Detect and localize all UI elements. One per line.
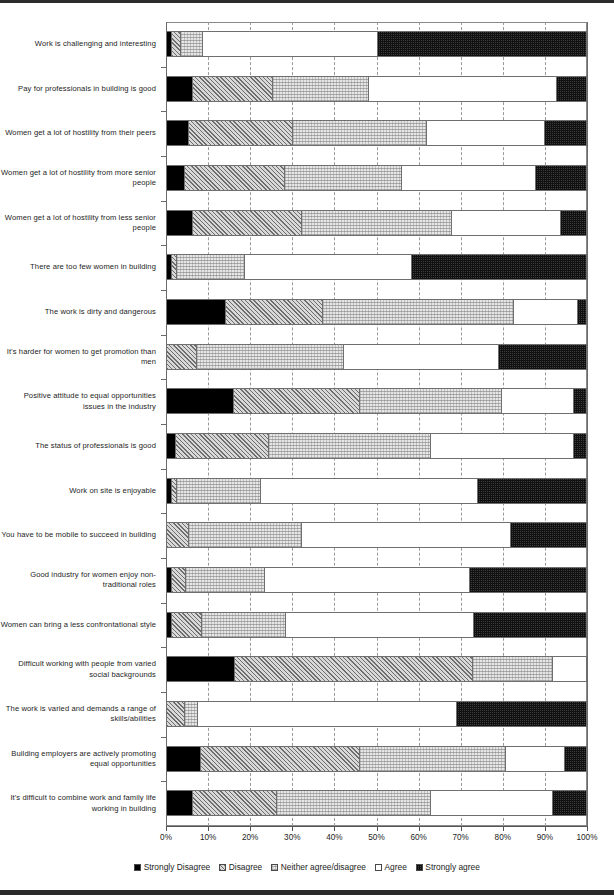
x-tick-label: 10% bbox=[185, 833, 231, 842]
stacked-bar[interactable] bbox=[166, 76, 587, 102]
x-tick-60 bbox=[419, 826, 420, 831]
bar-segment-3 bbox=[401, 166, 535, 190]
stacked-bar-chart: Work is challenging and interestingPay f… bbox=[0, 0, 614, 895]
legend-swatch-3 bbox=[375, 864, 382, 871]
category-label: Pay for professionals in building is goo… bbox=[0, 84, 156, 94]
category-label: Women get a lot of hostility from less s… bbox=[0, 213, 156, 233]
legend-item[interactable]: Strongly Disagree bbox=[134, 862, 210, 872]
stacked-bar[interactable] bbox=[166, 478, 587, 504]
bar-row bbox=[166, 692, 587, 737]
stacked-bar[interactable] bbox=[166, 790, 587, 816]
bar-segment-3 bbox=[426, 121, 543, 145]
bar-segment-1 bbox=[200, 747, 359, 771]
x-tick-30 bbox=[292, 826, 293, 831]
bar-segment-0 bbox=[167, 434, 175, 458]
bar-row bbox=[166, 290, 587, 335]
bar-segment-0 bbox=[167, 389, 233, 413]
x-tick-40 bbox=[334, 826, 335, 831]
bar-row bbox=[166, 469, 587, 514]
bar-segment-3 bbox=[260, 479, 477, 503]
category-label: The work is dirty and dangerous bbox=[0, 307, 156, 317]
bar-row bbox=[166, 245, 587, 290]
bar-segment-1 bbox=[175, 434, 267, 458]
legend-swatch-4 bbox=[416, 864, 423, 871]
bar-segment-2 bbox=[472, 657, 552, 681]
bar-segment-3 bbox=[505, 747, 564, 771]
x-tick-label: 100% bbox=[564, 833, 610, 842]
bar-segment-2 bbox=[272, 77, 368, 101]
stacked-bar[interactable] bbox=[166, 120, 587, 146]
bar-segment-4 bbox=[473, 613, 586, 637]
bar-row bbox=[166, 335, 587, 380]
bar-segment-2 bbox=[292, 121, 426, 145]
bar-segment-1 bbox=[184, 166, 285, 190]
bar-segment-1 bbox=[192, 211, 301, 235]
bar-segment-1 bbox=[167, 702, 184, 726]
bar-segment-2 bbox=[201, 613, 285, 637]
bar-segment-2 bbox=[301, 211, 451, 235]
bar-segment-2 bbox=[196, 345, 343, 369]
stacked-bar[interactable] bbox=[166, 299, 587, 325]
x-tick-80 bbox=[503, 826, 504, 831]
scan-edge-top bbox=[0, 0, 614, 3]
category-label: It's harder for women to get promotion t… bbox=[0, 347, 156, 367]
bar-segment-3 bbox=[264, 568, 468, 592]
category-label: It's difficult to combine work and famil… bbox=[0, 793, 156, 813]
bar-segment-1 bbox=[167, 523, 188, 547]
bar-segment-4 bbox=[573, 389, 586, 413]
legend-item[interactable]: Agree bbox=[375, 862, 407, 872]
gridline-100 bbox=[587, 22, 588, 826]
x-tick-label: 20% bbox=[227, 833, 273, 842]
bar-segment-4 bbox=[577, 300, 586, 324]
bar-segment-2 bbox=[176, 479, 260, 503]
stacked-bar[interactable] bbox=[166, 612, 587, 638]
bar-segment-3 bbox=[430, 434, 572, 458]
bar-row bbox=[166, 603, 587, 648]
bar-row bbox=[166, 781, 587, 826]
stacked-bar[interactable] bbox=[166, 254, 587, 280]
bar-segment-2 bbox=[188, 523, 301, 547]
bar-segment-3 bbox=[368, 77, 556, 101]
stacked-bar[interactable] bbox=[166, 344, 587, 370]
legend-swatch-1 bbox=[219, 864, 226, 871]
legend-item[interactable]: Disagree bbox=[219, 862, 262, 872]
stacked-bar[interactable] bbox=[166, 746, 587, 772]
bar-segment-2 bbox=[184, 702, 197, 726]
stacked-bar[interactable] bbox=[166, 31, 587, 57]
bar-segment-1 bbox=[192, 791, 276, 815]
bar-segment-3 bbox=[301, 523, 510, 547]
stacked-bar[interactable] bbox=[166, 567, 587, 593]
x-tick-label: 90% bbox=[522, 833, 568, 842]
bar-row bbox=[166, 647, 587, 692]
legend-item[interactable]: Neither agree/disagree bbox=[271, 862, 366, 872]
category-label: The status of professionals is good bbox=[0, 441, 156, 451]
bar-row bbox=[166, 737, 587, 782]
stacked-bar[interactable] bbox=[166, 656, 587, 682]
legend-item[interactable]: Strongly agree bbox=[416, 862, 480, 872]
x-tick-100 bbox=[587, 826, 588, 831]
stacked-bar[interactable] bbox=[166, 522, 587, 548]
bar-segment-2 bbox=[276, 791, 431, 815]
bar-segment-0 bbox=[167, 121, 188, 145]
category-label: Good industry for women enjoy non-tradit… bbox=[0, 570, 156, 590]
bar-segment-1 bbox=[233, 389, 359, 413]
bar-segment-1 bbox=[234, 657, 472, 681]
bar-row bbox=[166, 67, 587, 112]
x-tick-70 bbox=[461, 826, 462, 831]
legend-swatch-0 bbox=[134, 864, 141, 871]
stacked-bar[interactable] bbox=[166, 701, 587, 727]
stacked-bar[interactable] bbox=[166, 165, 587, 191]
category-label: Difficult working with people from varie… bbox=[0, 659, 156, 679]
stacked-bar[interactable] bbox=[166, 210, 587, 236]
bar-segment-3 bbox=[513, 300, 576, 324]
bar-segment-2 bbox=[176, 255, 243, 279]
bar-segment-3 bbox=[202, 32, 377, 56]
stacked-bar[interactable] bbox=[166, 433, 587, 459]
bar-row bbox=[166, 379, 587, 424]
bar-segment-3 bbox=[343, 345, 498, 369]
bar-segment-0 bbox=[167, 747, 200, 771]
bar-segment-4 bbox=[510, 523, 586, 547]
bar-segment-4 bbox=[469, 568, 586, 592]
bar-segment-0 bbox=[167, 300, 225, 324]
stacked-bar[interactable] bbox=[166, 388, 587, 414]
